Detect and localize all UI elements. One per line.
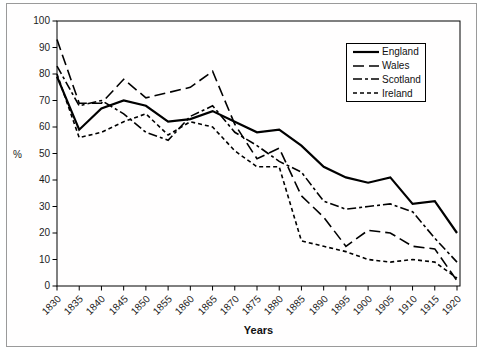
x-axis-title: Years	[57, 324, 460, 336]
legend-label: Scotland	[382, 74, 421, 85]
y-tick-label-40: 40	[20, 175, 50, 185]
y-tick-label-90: 90	[20, 43, 50, 53]
y-tick-label-80: 80	[20, 69, 50, 79]
y-tick-label-100: 100	[20, 16, 50, 26]
y-tick-label-10: 10	[20, 255, 50, 265]
legend-item-ireland: Ireland	[353, 87, 425, 99]
y-tick-label-30: 30	[20, 202, 50, 212]
y-tick-label-50: 50	[20, 149, 50, 159]
legend-line-sample-scotland	[353, 75, 379, 83]
chart-figure: { "chart_data": { "type": "line", "title…	[0, 0, 483, 350]
y-tick-label-20: 20	[20, 228, 50, 238]
legend-line-sample-england	[353, 48, 379, 56]
y-axis-title: %	[13, 149, 22, 160]
legend-item-scotland: Scotland	[353, 74, 425, 86]
legend-label: Ireland	[382, 88, 413, 99]
y-tick-label-60: 60	[20, 122, 50, 132]
y-tick-label-70: 70	[20, 96, 50, 106]
series-line-ireland	[57, 74, 457, 278]
legend-line-sample-wales	[353, 62, 379, 70]
legend-label: England	[382, 46, 419, 57]
legend-box: EnglandWalesScotlandIreland	[346, 43, 426, 102]
legend-line-sample-ireland	[353, 89, 379, 97]
legend-item-wales: Wales	[353, 60, 425, 72]
y-tick-label-0: 0	[20, 281, 50, 291]
legend-item-england: England	[353, 46, 425, 58]
legend-label: Wales	[382, 60, 409, 71]
